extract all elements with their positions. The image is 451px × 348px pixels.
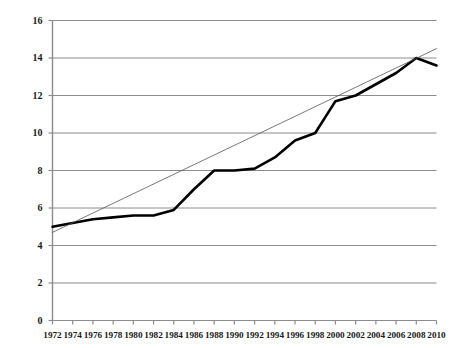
- series-line-data: [53, 58, 437, 227]
- y-tick-label-2: 2: [17, 278, 43, 288]
- y-tick-label-10: 10: [17, 128, 43, 138]
- y-tick-label-14: 14: [17, 53, 43, 63]
- chart-container: 0246810121416197219741976197819801982198…: [0, 0, 451, 348]
- chart-plot-area: [0, 0, 451, 348]
- y-tick-label-12: 12: [17, 91, 43, 101]
- series-line-trendline: [53, 49, 437, 233]
- y-tick-label-8: 8: [17, 166, 43, 176]
- y-tick-label-16: 16: [17, 16, 43, 26]
- y-tick-label-6: 6: [17, 203, 43, 213]
- x-tick-label-2010: 2010: [422, 330, 451, 340]
- y-tick-label-4: 4: [17, 241, 43, 251]
- y-tick-label-0: 0: [17, 316, 43, 326]
